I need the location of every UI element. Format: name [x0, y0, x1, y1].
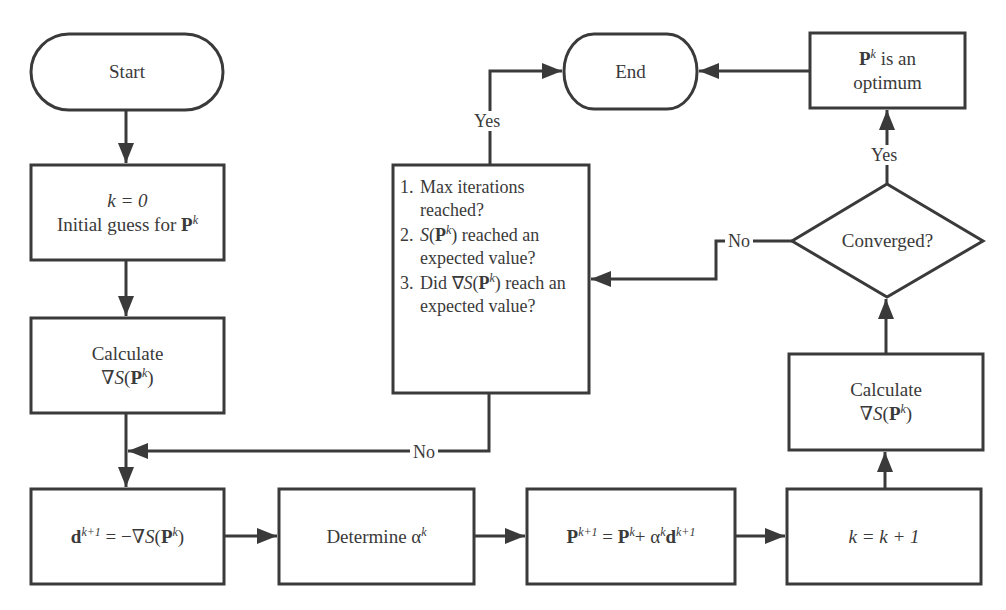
direction-label: dk+1 = −∇S(Pk) — [31, 489, 224, 584]
update-expression: Pk+1 = Pk+ αkdk+1 — [567, 525, 696, 549]
stop-yes-label: Yes — [471, 111, 503, 131]
end-label: End — [564, 34, 697, 109]
calc-right-label: Calculate ∇S(Pk) — [789, 354, 983, 450]
gradient-expression: ∇S(Pk) — [101, 366, 153, 390]
stop-check-list: 1. Max iterations reached? 2. S(Pk) reac… — [400, 176, 586, 320]
stop-check-item-3: 3. Did ∇S(Pk) reach an expected value? — [400, 272, 586, 318]
init-line1: k = 0 — [107, 189, 147, 213]
calc-left-label: Calculate ∇S(Pk) — [31, 318, 224, 413]
stop-check-item-1: 1. Max iterations reached? — [400, 176, 586, 222]
direction-expression: dk+1 = −∇S(Pk) — [71, 525, 184, 549]
optimum-label: Pk is an optimum — [810, 33, 965, 108]
gradient-expression: ∇S(Pk) — [860, 402, 912, 426]
init-line2: Initial guess for Pk — [57, 213, 198, 237]
converged-no-label: No — [725, 231, 753, 251]
stop-no-label: No — [410, 442, 438, 462]
stop-check-item-2: 2. S(Pk) reached an expected value? — [400, 224, 586, 270]
edge-converged-no — [591, 241, 792, 279]
converged-label: Converged? — [792, 184, 983, 297]
converged-yes-label: Yes — [868, 145, 900, 165]
start-label: Start — [31, 34, 223, 110]
update-label: Pk+1 = Pk+ αkdk+1 — [527, 489, 735, 584]
step-label: Determine αk — [279, 489, 474, 584]
increment-label: k = k + 1 — [787, 489, 981, 584]
init-label: k = 0 Initial guess for Pk — [31, 165, 224, 260]
